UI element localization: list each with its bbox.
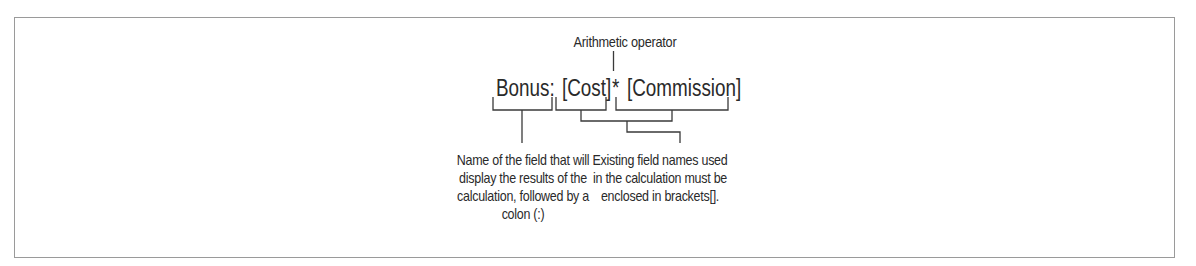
formula-operand-cost: [Cost] <box>562 75 611 102</box>
operator-label: Arithmetic operator <box>519 33 732 50</box>
formula-operator: * <box>612 75 619 102</box>
formula-field-name: Bonus: <box>496 75 555 102</box>
annotation-field-name: Name of the field that will display the … <box>441 151 604 223</box>
annotation-existing-fields: Existing field names used in the calcula… <box>591 151 729 205</box>
formula-operand-commission: [Commission] <box>627 75 741 102</box>
operands-connector <box>581 110 672 121</box>
operands-drop-line <box>627 121 680 143</box>
